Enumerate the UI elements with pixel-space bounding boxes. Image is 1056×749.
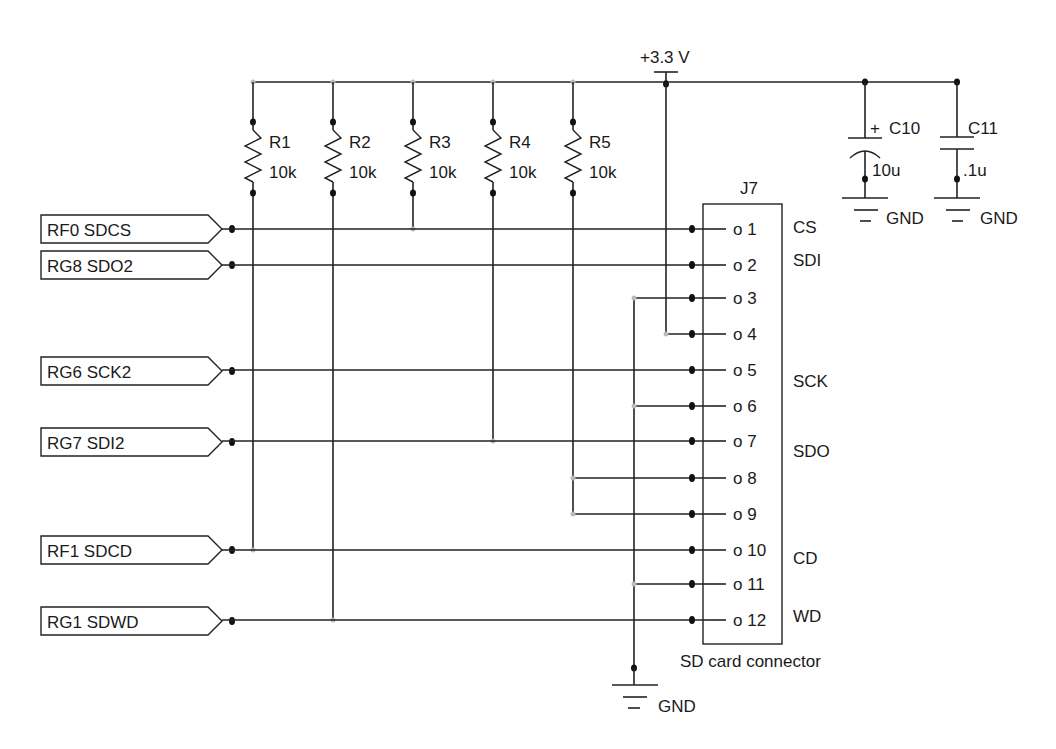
schematic-canvas: +3.3 V R1 10k R2 10k R3 10k [0,0,1056,749]
r3-value: 10k [429,163,457,182]
r4-ref: R4 [509,133,531,152]
connector-ref: J7 [740,179,758,198]
r4-value: 10k [509,163,537,182]
svg-text:RF0 SDCS: RF0 SDCS [47,221,131,240]
pin-12: o 12 [733,611,766,630]
pin-10: o 10 [733,541,766,560]
r2-ref: R2 [349,133,371,152]
pin-func-sck: SCK [793,372,829,391]
r5-value: 10k [589,163,617,182]
svg-text:RG7 SDI2: RG7 SDI2 [47,434,124,453]
svg-text:RF1 SDCD: RF1 SDCD [47,542,132,561]
net-label-rg7-sdi2[interactable]: RG7 SDI2 [41,428,705,456]
pin-func-wd: WD [793,607,821,626]
r1-ref: R1 [269,133,291,152]
r2-value: 10k [349,163,377,182]
svg-text:RG6 SCK2: RG6 SCK2 [47,363,131,382]
resistor-r2: R2 10k [325,82,377,623]
r5-ref: R5 [589,133,611,152]
ground-label: GND [658,697,696,716]
net-label-rg1-sdwd[interactable]: RG1 SDWD [41,607,705,635]
c10-ref: C10 [889,119,920,138]
r3-ref: R3 [429,133,451,152]
pin-dots [689,225,695,624]
power-3v3-symbol: +3.3 V [640,48,705,337]
pin-1: o 1 [733,220,757,239]
c11-ref: C11 [968,119,998,138]
c10-polarity: + [870,119,880,138]
pin-func-sdi: SDI [793,251,821,270]
pin-5: o 5 [733,361,757,380]
net-label-rg8-sdo2[interactable]: RG8 SDO2 [41,251,705,279]
connector-j7: J7 SD card connector [680,179,830,671]
pin-7: o 7 [733,432,757,451]
c11-value: .1u [963,161,987,180]
capacitor-c11: C11 .1u GND [934,79,1018,229]
pin-func-cd: CD [793,549,818,568]
pin-2: o 2 [733,256,757,275]
r1-value: 10k [269,163,297,182]
pin-func-sdo: SDO [793,442,830,461]
pin-11: o 11 [733,575,765,594]
net-label-rf0-sdcs[interactable]: RF0 SDCS [41,215,705,243]
connector-caption: SD card connector [680,652,821,671]
pin-func-cs: CS [793,218,817,237]
c11-gnd-label: GND [980,209,1018,228]
net-label-rf1-sdcd[interactable]: RF1 SDCD [41,536,705,564]
pin-8: o 8 [733,469,757,488]
pin-9: o 9 [733,505,757,524]
svg-text:RG1 SDWD: RG1 SDWD [47,613,139,632]
resistor-r4: R4 10k [485,82,537,444]
net-label-rg6-sck2[interactable]: RG6 SCK2 [41,357,705,385]
pin-3: o 3 [733,289,757,308]
pin-stubs [705,229,726,620]
c10-gnd-label: GND [886,209,924,228]
power-label: +3.3 V [640,48,690,67]
svg-text:RG8 SDO2: RG8 SDO2 [47,257,133,276]
resistor-r3: R3 10k [405,82,457,232]
pin-6: o 6 [733,397,757,416]
pin-4: o 4 [733,325,757,344]
capacitor-c10: + C10 10u GND [842,79,924,229]
c10-value: 10u [872,161,900,180]
resistor-r1: R1 10k [245,82,297,553]
